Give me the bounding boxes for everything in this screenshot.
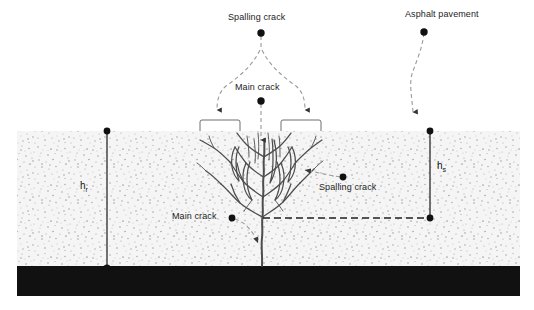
left-spalling-zone-bracket	[200, 120, 240, 131]
diagram-canvas	[0, 0, 534, 310]
spalling-top-anchor-dot	[257, 29, 264, 36]
spalling-right-anchor-dot	[340, 174, 347, 181]
h-s-top-marker	[427, 128, 434, 135]
spalling-top-leader-left	[217, 50, 260, 110]
asphalt-pavement-anchor-dot	[420, 28, 427, 35]
asphalt-pavement-leader	[411, 33, 424, 112]
h-s-dimension-label: hs	[437, 160, 446, 173]
h-s-bottom-marker	[427, 215, 434, 222]
spalling-top-leader-right	[262, 50, 305, 110]
main-crack-left-anchor-dot	[229, 215, 236, 222]
h-r-top-marker	[104, 128, 111, 135]
overlay-speckled-layer	[17, 131, 520, 266]
asphalt-pavement-label: Asphalt pavement	[405, 9, 479, 19]
h-s-subscript: s	[443, 166, 447, 173]
h-r-subscript: r	[86, 186, 88, 193]
spalling-crack-top-label: Spalling crack	[228, 12, 285, 22]
main-crack-top-label: Main crack	[235, 82, 280, 92]
asphalt-pavement-layer	[17, 266, 520, 296]
h-r-bottom-marker	[104, 265, 111, 272]
main-crack-left-label: Main crack	[172, 211, 217, 221]
right-spalling-zone-bracket	[281, 120, 321, 131]
h-r-dimension-label: hr	[80, 180, 88, 193]
pavement-crack-diagram: Spalling crack Asphalt pavement Main cra…	[0, 0, 534, 310]
spalling-crack-right-label: Spalling crack	[319, 182, 376, 192]
main-crack-top-anchor-dot	[257, 97, 264, 104]
